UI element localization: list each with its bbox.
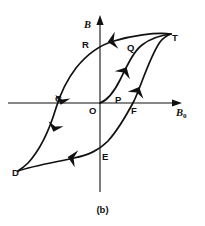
point-label-P: P [115, 95, 121, 105]
arrow-descending-top-right [106, 32, 118, 51]
horizontal-axis-label-base: B [176, 107, 183, 118]
horizontal-axis-label-subscript: 0 [183, 112, 187, 120]
arrow-ascending-right-up [128, 84, 147, 99]
point-label-C: C [55, 94, 62, 104]
hysteresis-figure: B B0 T R Q C O P F E D (b) [0, 0, 205, 226]
point-label-E: E [102, 152, 108, 162]
horizontal-axis-arrowhead [172, 99, 182, 106]
initial-magnetization-curve [100, 34, 171, 103]
axes-group [8, 15, 182, 192]
point-label-F: F [131, 106, 137, 116]
vertical-axis-arrowhead [96, 15, 103, 25]
curves-group [18, 33, 171, 171]
horizontal-axis-label: B0 [176, 108, 187, 120]
vertical-axis-label: B [84, 20, 91, 31]
figure-caption: (b) [0, 204, 205, 215]
point-label-Q: Q [127, 43, 134, 53]
point-label-D: D [12, 168, 19, 178]
point-label-O: O [89, 106, 96, 116]
arrow-initial-curve-up [115, 63, 134, 79]
point-label-R: R [82, 40, 89, 50]
point-label-T: T [172, 33, 178, 43]
